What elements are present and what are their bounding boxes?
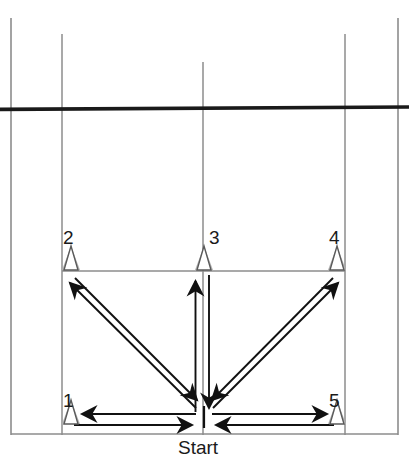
cone-3-label: 3: [209, 228, 220, 247]
route-start-to-cone-2: [70, 283, 196, 408]
route-start-to-cone-4: [213, 283, 338, 408]
drill-diagram: 1 2 3 4 5 Start: [0, 0, 409, 461]
start-label: Start: [178, 438, 218, 457]
court-diagram-canvas: [0, 0, 409, 461]
drill-route-arrows: [70, 275, 338, 425]
cone-1-label: 1: [63, 391, 74, 410]
cone-5-label: 5: [329, 391, 340, 410]
cone-2-label: 2: [63, 228, 74, 247]
cone-4-label: 4: [329, 228, 340, 247]
cones: [62, 246, 346, 424]
cone-4-marker: [328, 246, 346, 270]
court-line-net: [0, 107, 409, 109]
cone-3-marker: [195, 246, 213, 270]
cone-2-marker: [62, 246, 80, 270]
route-cone-4-to-start: [212, 278, 333, 400]
route-cone-2-to-start: [75, 278, 197, 400]
